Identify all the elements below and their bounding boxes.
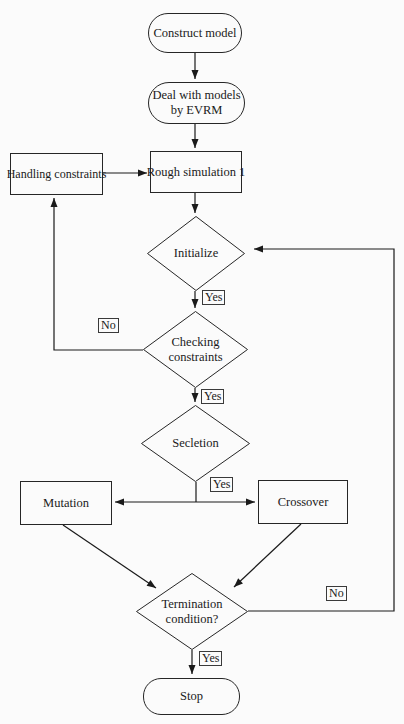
node-termination: Termination condition? bbox=[136, 573, 248, 650]
node-selection-label: Secletion bbox=[172, 436, 219, 451]
edge-label-initialize-yes: Yes bbox=[202, 290, 225, 305]
node-stop-label: Stop bbox=[180, 689, 203, 704]
node-checking-constraints: Checking constraints bbox=[143, 311, 248, 388]
node-selection: Secletion bbox=[141, 405, 250, 482]
edge-label-termination-no: No bbox=[326, 586, 347, 601]
edge-label-termination-yes: Yes bbox=[199, 651, 222, 666]
node-crossover: Crossover bbox=[258, 480, 348, 524]
node-mutation-label: Mutation bbox=[43, 496, 89, 511]
edge-label-checking-yes: Yes bbox=[201, 389, 224, 404]
node-stop: Stop bbox=[143, 678, 240, 715]
node-initialize: Initialize bbox=[147, 216, 245, 291]
node-handling-constraints-label: Handling constraints bbox=[7, 167, 107, 182]
node-construct-model-label: Construct model bbox=[154, 26, 237, 41]
node-initialize-label: Initialize bbox=[174, 246, 218, 261]
node-construct-model: Construct model bbox=[148, 13, 242, 53]
flowchart-canvas: Construct model Deal with models by EVRM… bbox=[0, 0, 404, 724]
node-handling-constraints: Handling constraints bbox=[10, 153, 103, 195]
node-deal-evrm: Deal with models by EVRM bbox=[148, 82, 245, 124]
node-crossover-label: Crossover bbox=[278, 495, 329, 510]
node-checking-constraints-label: Checking constraints bbox=[161, 335, 231, 365]
node-rough-simulation: Rough simulation 1 bbox=[150, 151, 242, 193]
edge-termination-no-to-initialize bbox=[248, 249, 394, 611]
node-rough-simulation-label: Rough simulation 1 bbox=[147, 165, 246, 180]
node-mutation: Mutation bbox=[20, 481, 112, 525]
node-deal-evrm-label: Deal with models by EVRM bbox=[152, 88, 242, 118]
edge-label-selection-yes: Yes bbox=[210, 477, 233, 492]
node-termination-label: Termination condition? bbox=[152, 597, 232, 627]
edge-label-checking-no: No bbox=[98, 318, 119, 333]
